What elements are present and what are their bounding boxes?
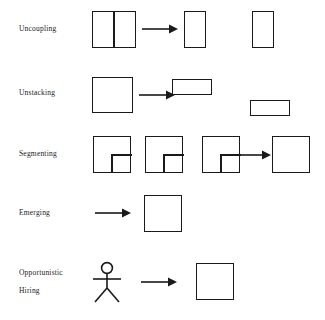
row-label-opportunistic-hiring-line1: Opportunistic (19, 269, 63, 277)
row-label-emerging: Emerging (19, 209, 50, 217)
stick-figure-icon (88, 261, 126, 303)
row-label-uncoupling: Uncoupling (19, 25, 56, 33)
row-label-opportunistic-hiring-line2: Hiring (19, 287, 40, 295)
segmenting-result-square (272, 136, 310, 173)
opportunistic-hiring-arrow (141, 276, 177, 288)
segmenting-notch-left-1 (111, 154, 113, 173)
diagram-canvas: Uncoupling Unstacking Segmenting (0, 0, 325, 320)
segmenting-notch-top-1 (111, 154, 132, 156)
unstacking-source-square (92, 77, 133, 113)
segmenting-notch-top-2 (163, 154, 184, 156)
uncoupling-divider-line (113, 11, 115, 48)
uncoupling-result-rect-2 (252, 11, 274, 48)
segmenting-notch-top-3 (220, 154, 241, 156)
uncoupling-result-rect-1 (184, 11, 206, 48)
row-label-segmenting: Segmenting (19, 150, 57, 158)
segmenting-notch-left-2 (163, 154, 165, 173)
opportunistic-hiring-result-square (196, 263, 234, 300)
emerging-result-square (144, 195, 182, 232)
segmenting-arrow (240, 149, 271, 161)
row-label-unstacking: Unstacking (19, 89, 55, 97)
emerging-arrow (95, 207, 131, 219)
segmenting-notch-left-3 (220, 154, 222, 173)
unstacking-arrow (139, 89, 175, 101)
unstacking-result-rect-1 (172, 79, 212, 95)
unstacking-result-rect-2 (250, 100, 290, 116)
uncoupling-arrow (142, 23, 178, 35)
